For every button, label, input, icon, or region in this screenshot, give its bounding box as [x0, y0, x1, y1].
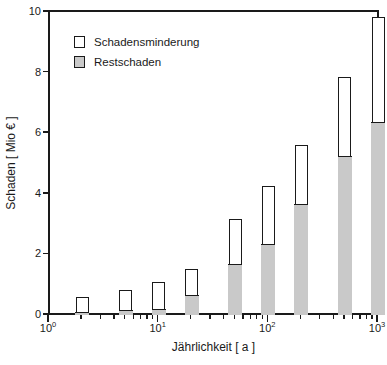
y-axis-title-text: Schaden [ Mio € ]	[4, 116, 18, 209]
x-tick-label: 102	[259, 323, 275, 334]
bar-segment-restschaden	[228, 264, 242, 315]
x-tick-minor	[262, 315, 263, 319]
x-axis-ticks: 100101102103	[48, 315, 379, 341]
x-tick-minor	[140, 315, 141, 319]
bar-stack	[76, 297, 89, 314]
x-tick-minor	[242, 315, 243, 319]
legend-item-schadensminderung: Schadensminderung	[74, 36, 200, 48]
legend: Schadensminderung Restschaden	[74, 36, 200, 76]
x-tick-major	[267, 315, 268, 322]
y-axis-title: Schaden [ Mio € ]	[2, 0, 20, 325]
bar-segment-restschaden	[152, 309, 166, 315]
y-tick-label: 6	[19, 127, 41, 138]
x-tick-minor	[80, 315, 81, 319]
x-tick-minor	[133, 315, 134, 319]
y-tick-label: 0	[19, 309, 41, 320]
x-axis-title: Jährlichkeit [ a ]	[48, 340, 379, 354]
x-tick-minor	[152, 315, 153, 319]
x-tick-minor	[190, 315, 191, 319]
x-tick-major	[376, 315, 377, 322]
bar-stack	[119, 290, 132, 314]
y-tick-label: 4	[19, 187, 41, 198]
x-tick-minor	[256, 315, 257, 319]
x-tick-label: 100	[40, 323, 56, 334]
y-tick-label: 2	[19, 248, 41, 259]
x-tick-minor	[124, 315, 125, 319]
bar-segment-restschaden	[261, 244, 275, 314]
bar-stack	[372, 17, 385, 314]
x-tick-minor	[146, 315, 147, 319]
bar-stack	[152, 282, 165, 314]
bar-segment-restschaden	[185, 295, 199, 315]
x-tick-minor	[371, 315, 372, 319]
x-tick-minor	[319, 315, 320, 319]
x-tick-minor	[100, 315, 101, 319]
bar-stack	[229, 219, 242, 314]
y-tick-label: 10	[19, 6, 41, 17]
x-tick-minor	[223, 315, 224, 319]
legend-label-schadensminderung: Schadensminderung	[94, 36, 200, 48]
x-tick-minor	[359, 315, 360, 319]
legend-label-restschaden: Restschaden	[94, 56, 161, 68]
x-tick-minor	[333, 315, 334, 319]
damage-frequency-chart: 0246810 100101102103 Schadensminderung R…	[0, 0, 387, 365]
x-tick-minor	[234, 315, 235, 319]
bar-segment-restschaden	[119, 310, 133, 315]
legend-swatch-schadensminderung	[74, 36, 85, 48]
x-tick-minor	[113, 315, 114, 319]
legend-swatch-restschaden	[74, 56, 85, 68]
bar-segment-restschaden	[75, 312, 89, 314]
x-tick-label: 101	[149, 323, 165, 334]
x-tick-major	[157, 315, 158, 322]
x-tick-minor	[352, 315, 353, 319]
x-tick-minor	[209, 315, 210, 319]
x-tick-minor	[343, 315, 344, 319]
bar-stack	[295, 145, 308, 314]
x-tick-minor	[250, 315, 251, 319]
bar-segment-restschaden	[294, 204, 308, 315]
x-tick-minor	[366, 315, 367, 319]
x-tick-major	[47, 315, 48, 322]
bar-segment-restschaden	[371, 122, 385, 314]
legend-item-restschaden: Restschaden	[74, 56, 200, 68]
x-tick-label: 103	[369, 323, 385, 334]
x-tick-minor	[300, 315, 301, 319]
bar-stack	[262, 186, 275, 314]
bar-segment-restschaden	[338, 156, 352, 314]
y-tick-label: 8	[19, 66, 41, 77]
bar-stack	[338, 77, 351, 314]
bar-stack	[185, 269, 198, 314]
